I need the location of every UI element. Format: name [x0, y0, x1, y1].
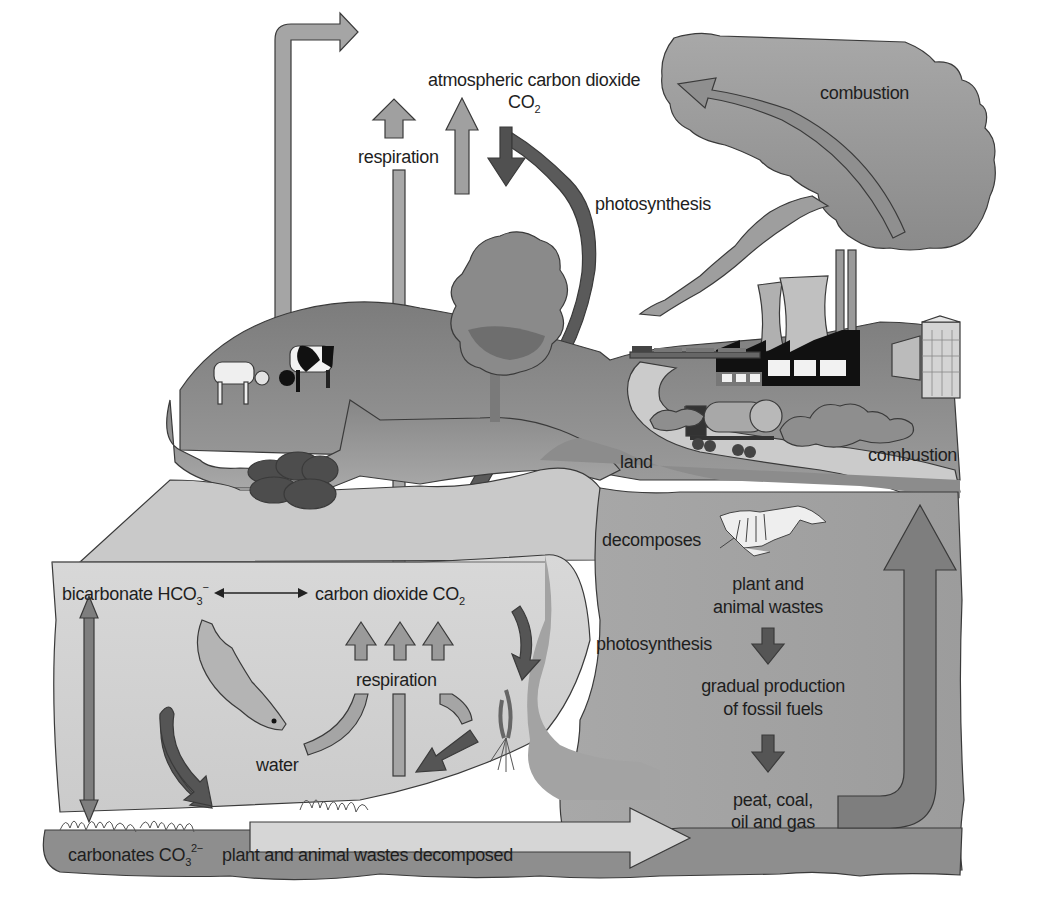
- label-plant-animal-wastes-2: animal wastes: [713, 597, 823, 617]
- label-photosynthesis-water: photosynthesis: [596, 634, 712, 654]
- label-photosynthesis-top: photosynthesis: [595, 194, 711, 214]
- label-fossil-production-1: gradual production: [701, 676, 845, 696]
- label-respiration-water: respiration: [356, 670, 437, 690]
- respiration-bar-middle: [393, 694, 405, 776]
- label-wastes-decomposed: plant and animal wastes decomposed: [222, 845, 513, 865]
- label-water: water: [255, 755, 299, 775]
- respiration-arrow-small: [373, 99, 415, 138]
- label-bicarbonate: bicarbonate HCO3−: [62, 581, 209, 607]
- label-plant-animal-wastes-1: plant and: [732, 574, 803, 594]
- label-land: land: [620, 452, 653, 472]
- label-carbon-dioxide-water: carbon dioxide CO2: [315, 584, 465, 607]
- label-respiration-top: respiration: [358, 147, 439, 167]
- label-combustion-land: combustion: [868, 445, 957, 465]
- respiration-arrow-tree: [446, 98, 478, 194]
- water-respiration-arrows: [346, 622, 453, 660]
- label-decomposes: decomposes: [602, 530, 701, 550]
- smoke-cloud-icon: [640, 33, 995, 316]
- carbon-cycle-diagram: atmospheric carbon dioxide CO2 respirati…: [0, 0, 1041, 922]
- label-fossil-production-2: of fossil fuels: [723, 699, 823, 719]
- label-fossil-fuels-1: peat, coal,: [733, 790, 813, 810]
- label-atmospheric-co2-formula: CO2: [508, 92, 540, 115]
- label-fossil-fuels-2: oil and gas: [731, 812, 815, 832]
- label-combustion-cloud: combustion: [820, 83, 909, 103]
- label-atmospheric-co2: atmospheric carbon dioxide: [428, 70, 641, 90]
- label-carbonates: carbonates CO32−: [68, 842, 203, 868]
